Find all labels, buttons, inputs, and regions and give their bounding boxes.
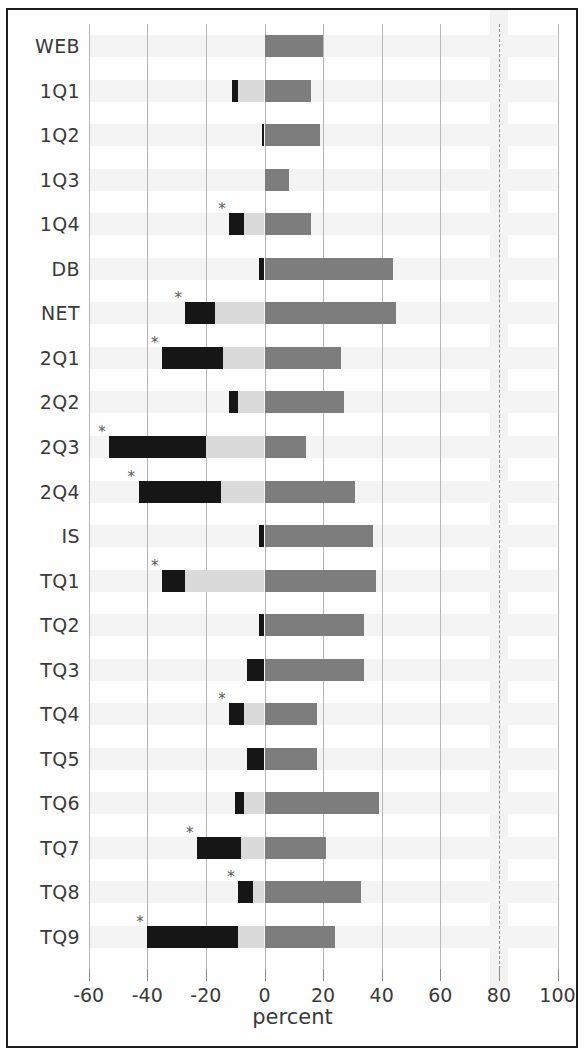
bar-segment-dark-2Q3: [265, 436, 306, 458]
category-label-TQ9: TQ9: [10, 926, 80, 948]
significance-marker-TQ1: *: [151, 561, 159, 571]
bar-segment-dark-1Q2: [265, 124, 321, 146]
category-label-TQ8: TQ8: [10, 881, 80, 903]
bar-segment-black-2Q1: [162, 347, 224, 369]
x-ticklabel-80: 80: [469, 984, 529, 1006]
bar-segment-light-TQ9: [238, 926, 264, 948]
gridline--60: [89, 24, 90, 969]
category-label-TQ6: TQ6: [10, 792, 80, 814]
bar-segment-dark-IS: [265, 525, 373, 547]
x-ticklabel--20: -20: [176, 984, 236, 1006]
x-ticklabel-60: 60: [410, 984, 470, 1006]
significance-marker-2Q3: *: [98, 427, 106, 437]
bar-segment-black-NET: [185, 302, 214, 324]
category-label-1Q2: 1Q2: [10, 124, 80, 146]
bar-segment-dark-2Q2: [265, 391, 344, 413]
bar-segment-light-1Q4: [244, 213, 265, 235]
bar-segment-black-TQ8: [238, 881, 253, 903]
x-tick-100: [558, 969, 559, 981]
x-axis-title: percent: [0, 1005, 585, 1029]
bar-segment-dark-DB: [265, 258, 394, 280]
significance-marker-TQ9: *: [136, 917, 144, 927]
bar-segment-light-2Q1: [223, 347, 264, 369]
plot-area: WEB1Q11Q21Q31Q4DBNET2Q12Q22Q32Q4ISTQ1TQ2…: [0, 0, 585, 1060]
bar-segment-dark-2Q4: [265, 481, 356, 503]
gridline-80: [499, 24, 500, 969]
bar-segment-dark-TQ8: [265, 881, 362, 903]
gridline-40: [382, 24, 383, 969]
significance-marker-2Q1: *: [151, 338, 159, 348]
category-label-1Q4: 1Q4: [10, 213, 80, 235]
x-ticklabel-40: 40: [352, 984, 412, 1006]
bar-segment-black-TQ3: [247, 659, 265, 681]
bar-segment-black-TQ5: [247, 748, 265, 770]
chart-figure: WEB1Q11Q21Q31Q4DBNET2Q12Q22Q32Q4ISTQ1TQ2…: [0, 0, 585, 1060]
x-ticklabel-100: 100: [528, 984, 585, 1006]
category-label-WEB: WEB: [10, 35, 80, 57]
category-label-TQ7: TQ7: [10, 837, 80, 859]
x-ticklabel-20: 20: [293, 984, 353, 1006]
bar-segment-black-2Q4: [139, 481, 221, 503]
bar-segment-dark-1Q1: [265, 80, 312, 102]
category-label-2Q3: 2Q3: [10, 436, 80, 458]
bar-segment-dark-TQ3: [265, 659, 365, 681]
x-tick-60: [440, 969, 441, 981]
category-label-2Q1: 2Q1: [10, 347, 80, 369]
bar-segment-light-1Q1: [238, 80, 264, 102]
x-tick--40: [147, 969, 148, 981]
category-label-TQ5: TQ5: [10, 748, 80, 770]
bar-segment-dark-1Q3: [265, 169, 290, 191]
x-tick--20: [206, 969, 207, 981]
bar-segment-black-2Q3: [109, 436, 206, 458]
bar-segment-light-2Q4: [221, 481, 265, 503]
bar-segment-dark-TQ1: [265, 570, 376, 592]
bar-segment-light-TQ7: [241, 837, 264, 859]
x-tick-20: [323, 969, 324, 981]
bar-segment-dark-1Q4: [265, 213, 312, 235]
bar-segment-dark-TQ2: [265, 614, 365, 636]
category-label-TQ2: TQ2: [10, 614, 80, 636]
bar-segment-light-TQ6: [244, 792, 265, 814]
gridline-60: [440, 24, 441, 969]
x-tick-0: [265, 969, 266, 981]
significance-marker-2Q4: *: [128, 472, 136, 482]
x-tick--60: [89, 969, 90, 981]
bar-segment-dark-TQ4: [265, 703, 318, 725]
category-label-IS: IS: [10, 525, 80, 547]
category-label-2Q4: 2Q4: [10, 481, 80, 503]
gridline-100: [558, 24, 559, 969]
category-label-NET: NET: [10, 302, 80, 324]
bar-segment-light-TQ4: [244, 703, 265, 725]
bar-segment-dark-TQ9: [265, 926, 335, 948]
category-label-TQ3: TQ3: [10, 659, 80, 681]
x-ticklabel--60: -60: [59, 984, 119, 1006]
bar-segment-black-TQ6: [235, 792, 244, 814]
significance-marker-1Q4: *: [218, 204, 226, 214]
significance-marker-TQ4: *: [218, 694, 226, 704]
bar-segment-dark-TQ6: [265, 792, 379, 814]
bar-segment-light-2Q2: [238, 391, 264, 413]
x-tick-80: [499, 969, 500, 981]
bar-segment-dark-WEB: [265, 35, 324, 57]
bar-segment-dark-TQ7: [265, 837, 327, 859]
bar-segment-light-TQ1: [185, 570, 264, 592]
category-label-DB: DB: [10, 258, 80, 280]
x-tick-40: [382, 969, 383, 981]
bar-segment-black-TQ1: [162, 570, 185, 592]
x-ticklabel-0: 0: [235, 984, 295, 1006]
significance-marker-TQ8: *: [227, 872, 235, 882]
bar-segment-black-2Q2: [229, 391, 238, 413]
bar-segment-black-TQ9: [147, 926, 238, 948]
bar-segment-light-NET: [215, 302, 265, 324]
category-label-2Q2: 2Q2: [10, 391, 80, 413]
bar-segment-black-TQ7: [197, 837, 241, 859]
bar-segment-light-TQ8: [253, 881, 265, 903]
bar-segment-dark-TQ5: [265, 748, 318, 770]
bar-segment-dark-NET: [265, 302, 397, 324]
x-ticklabel--40: -40: [117, 984, 177, 1006]
bar-segment-dark-2Q1: [265, 347, 341, 369]
category-label-TQ4: TQ4: [10, 703, 80, 725]
significance-marker-NET: *: [174, 293, 182, 303]
category-label-1Q3: 1Q3: [10, 169, 80, 191]
bar-segment-black-TQ4: [229, 703, 244, 725]
